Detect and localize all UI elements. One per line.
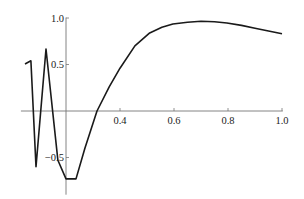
line-chart: 0.40.60.81.0 −0.50.51.0 xyxy=(0,0,304,199)
y-tick-label: 1.0 xyxy=(51,13,64,24)
x-tick-label: 0.6 xyxy=(167,115,180,126)
x-tick-label: 1.0 xyxy=(275,115,288,126)
y-axis-ticks: −0.50.51.0 xyxy=(45,13,69,164)
axes xyxy=(21,18,283,195)
y-tick-label: −0.5 xyxy=(45,152,64,163)
x-tick-label: 0.8 xyxy=(221,115,234,126)
y-tick-label: 0.5 xyxy=(51,59,64,70)
x-tick-label: 0.4 xyxy=(113,115,127,126)
